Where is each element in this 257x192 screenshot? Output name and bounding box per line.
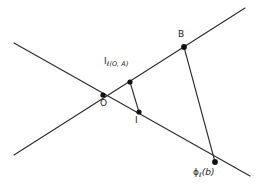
label-point-b: B bbox=[178, 30, 184, 39]
point-phi-ell-b bbox=[212, 159, 218, 165]
label-point-i: I bbox=[135, 116, 138, 125]
point-i-ell-o-a bbox=[127, 79, 132, 84]
label-point-o: O bbox=[100, 99, 107, 108]
label-point-i-ell-o-a: Iℓ(O, A) bbox=[104, 57, 129, 67]
segment-b-to-phi bbox=[184, 47, 215, 162]
descending-line bbox=[14, 43, 250, 176]
point-o bbox=[100, 92, 105, 97]
point-i bbox=[136, 109, 141, 114]
geometry-figure: Iℓ(O, A) B O I ϕℓ(b) bbox=[0, 0, 257, 192]
label-i-text: I bbox=[135, 115, 138, 125]
figure-canvas bbox=[0, 0, 257, 192]
label-o-text: O bbox=[100, 98, 107, 108]
label-point-phi-ell-b: ϕℓ(b) bbox=[193, 168, 214, 178]
point-b bbox=[181, 44, 187, 50]
segment-iell-to-i bbox=[130, 82, 139, 112]
label-b-text: B bbox=[178, 29, 184, 39]
label-phi-argument: (b) bbox=[202, 167, 215, 177]
label-i-ell-subscript: ℓ(O, A) bbox=[107, 60, 129, 68]
